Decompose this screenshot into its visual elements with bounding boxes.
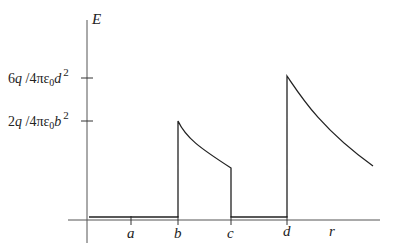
y-axis-label: E (91, 11, 101, 27)
x-tick-label-a: a (127, 225, 135, 241)
x-tick-label-b: b (174, 225, 182, 241)
x-axis-label: r (329, 223, 335, 239)
x-tick-label-c: c (227, 225, 234, 241)
chart: E r a b c d 6q /4πε0d2 2q /4πε0b2 (0, 0, 398, 249)
x-tick-label-d: d (283, 223, 291, 239)
field-curve (89, 76, 373, 217)
y-tick-label-high: 6q /4πε0d2 (8, 66, 69, 88)
y-tick-label-low: 2q /4πε0b2 (8, 109, 69, 131)
